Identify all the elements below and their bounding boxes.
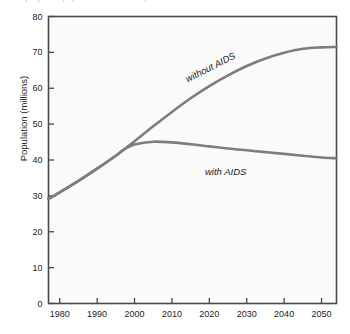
y-tick-label: 80	[19, 12, 43, 22]
y-tick-label: 30	[19, 191, 43, 201]
x-tick-label: 2050	[302, 309, 342, 319]
y-tick-label: 40	[19, 155, 43, 165]
y-tick-label: 10	[19, 263, 43, 273]
y-tick-label: 0	[19, 299, 43, 309]
y-tick-label: 60	[19, 83, 43, 93]
plot-background	[49, 17, 337, 304]
plot-area	[0, 0, 350, 334]
x-tick-label: 2030	[227, 309, 267, 319]
series-label-with-aids: with AIDS	[205, 166, 246, 177]
x-tick-label: 1980	[40, 309, 80, 319]
x-tick-label: 2000	[115, 309, 155, 319]
y-tick-label: 70	[19, 47, 43, 57]
x-tick-label: 2010	[152, 309, 192, 319]
x-tick-label: 2040	[264, 309, 304, 319]
y-tick-label: 50	[19, 119, 43, 129]
chart-figure: projected population of a country with a…	[0, 0, 350, 334]
x-tick-label: 1990	[77, 309, 117, 319]
x-tick-label: 2020	[189, 309, 229, 319]
y-tick-label: 20	[19, 227, 43, 237]
